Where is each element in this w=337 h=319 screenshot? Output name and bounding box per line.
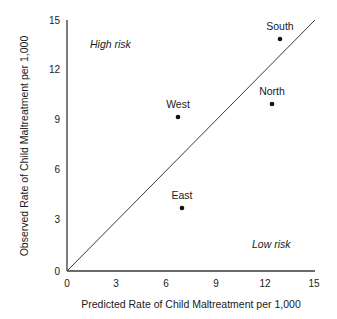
- y-tick-label-15: 15: [49, 15, 61, 26]
- data-point-west[interactable]: [176, 115, 181, 120]
- y-tick-label-9: 9: [54, 114, 60, 125]
- y-tick-label-6: 6: [54, 164, 60, 175]
- data-point-label-north: North: [259, 85, 285, 97]
- plot-canvas: 15 12 9 6 3 0 0 3 6 9 12 15 Predicted Ra…: [0, 0, 337, 319]
- y-axis-title: Observed Rate of Child Maltreatment per …: [18, 36, 30, 257]
- x-tick-label-15: 15: [308, 278, 320, 289]
- data-point-north[interactable]: [270, 102, 275, 107]
- x-tick-label-6: 6: [163, 278, 169, 289]
- y-tick-label-12: 12: [49, 64, 61, 75]
- identity-reference-line: [67, 20, 315, 271]
- data-point-label-south: South: [266, 20, 294, 32]
- data-point-label-west: West: [166, 98, 190, 110]
- y-tick-label-3: 3: [54, 214, 60, 225]
- x-tick-label-3: 3: [113, 278, 119, 289]
- x-tick-label-9: 9: [213, 278, 219, 289]
- data-point-south[interactable]: [278, 37, 283, 42]
- low-risk-annotation: Low risk: [252, 238, 291, 250]
- x-tick-label-12: 12: [259, 278, 271, 289]
- y-tick-label-0: 0: [54, 266, 60, 277]
- data-point-east[interactable]: [180, 206, 185, 211]
- data-point-label-east: East: [171, 189, 192, 201]
- high-risk-annotation: High risk: [90, 38, 132, 50]
- x-tick-label-0: 0: [64, 278, 70, 289]
- scatter-plot-figure: 15 12 9 6 3 0 0 3 6 9 12 15 Predicted Ra…: [0, 0, 337, 319]
- x-axis-title: Predicted Rate of Child Maltreatment per…: [81, 298, 301, 310]
